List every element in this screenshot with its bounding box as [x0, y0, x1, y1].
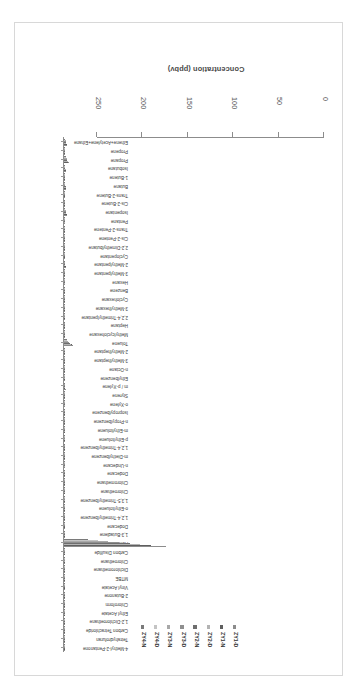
bar — [64, 604, 65, 605]
bar — [64, 375, 65, 376]
category-label: Trans-2-Pentene — [46, 225, 130, 233]
category-row: Benzene — [46, 286, 324, 295]
bar — [64, 296, 65, 297]
category-row: Propane — [46, 155, 324, 164]
bar — [64, 332, 65, 333]
category-label: Carbon Tetrachloride — [46, 626, 130, 634]
bar — [64, 641, 65, 642]
bar — [64, 466, 65, 467]
category-label: 3-Methylheptane — [46, 356, 130, 364]
category-row: 1,2,4-Trimethylbenzene — [46, 443, 324, 452]
bar — [64, 588, 65, 589]
bar — [64, 288, 65, 289]
bar — [64, 307, 65, 308]
bar — [64, 518, 65, 519]
bar — [64, 436, 65, 437]
bar — [64, 610, 65, 611]
bar — [64, 379, 65, 380]
bar — [64, 238, 65, 239]
bar — [64, 237, 65, 238]
bar — [64, 592, 65, 593]
bar — [64, 649, 65, 650]
bar — [64, 327, 65, 328]
bar — [64, 157, 66, 158]
bar — [64, 500, 65, 501]
value-axis-tick — [96, 132, 97, 137]
bar — [64, 462, 65, 463]
bar — [64, 279, 65, 280]
bar — [64, 427, 65, 428]
bar — [64, 229, 65, 230]
bar — [64, 291, 65, 292]
bar — [64, 498, 65, 499]
bar — [64, 282, 65, 283]
bar — [64, 201, 65, 202]
category-row: n-Octane — [46, 365, 324, 374]
bar — [64, 149, 65, 150]
bar — [64, 383, 65, 384]
category-row: Propene — [46, 147, 324, 156]
bar — [64, 509, 65, 510]
bar — [64, 561, 65, 562]
bar — [64, 395, 65, 396]
bar — [64, 141, 66, 142]
category-label: Butane — [46, 182, 130, 190]
bar — [64, 159, 67, 160]
bar — [64, 356, 65, 357]
bar — [64, 428, 65, 429]
bar — [64, 290, 65, 291]
bar — [64, 499, 65, 500]
bar — [64, 384, 65, 385]
bar — [64, 350, 65, 351]
category-row: Cis-2-Pentene — [46, 234, 324, 243]
bar — [64, 571, 65, 572]
bar — [64, 262, 65, 263]
bar — [64, 419, 65, 420]
category-label: Ethyl Acetate — [46, 609, 130, 617]
category-row: 3-Methylheptane — [46, 356, 324, 365]
bar — [64, 472, 65, 473]
bar — [64, 263, 65, 264]
bar — [64, 339, 67, 340]
bar — [64, 412, 65, 413]
bar — [64, 253, 65, 254]
bar — [64, 480, 65, 481]
bar — [64, 631, 65, 632]
bar — [64, 179, 65, 180]
bar — [64, 272, 65, 273]
bar — [64, 585, 65, 586]
bar — [64, 169, 66, 170]
bar — [64, 152, 65, 153]
category-row: 1,3-Butadiene — [46, 530, 324, 539]
bar — [64, 330, 65, 331]
bar — [64, 461, 65, 462]
bar — [64, 404, 65, 405]
bar — [64, 567, 65, 568]
bar — [64, 313, 65, 314]
bar — [64, 230, 65, 231]
bar — [64, 496, 65, 497]
bar — [64, 552, 65, 553]
bar — [64, 384, 65, 385]
bar — [64, 209, 65, 210]
bar — [64, 310, 65, 311]
category-row: n-Undecane — [46, 460, 324, 469]
category-label: 2,2-Dimethylbutane — [46, 243, 130, 251]
bar — [64, 357, 65, 358]
bar — [64, 246, 65, 247]
category-row: Carbon Disulfide — [46, 547, 324, 556]
bar — [64, 306, 65, 307]
category-row: 1,2-Dichloroethane — [46, 617, 324, 626]
bar — [64, 622, 65, 623]
bar — [64, 553, 65, 554]
bar — [64, 290, 65, 291]
bar — [64, 579, 65, 580]
bar — [64, 528, 65, 529]
bar — [64, 621, 65, 622]
bar — [64, 362, 65, 363]
bar — [64, 639, 65, 640]
category-label: o-Ethyltoluene — [46, 504, 130, 512]
bar — [64, 317, 65, 318]
bar — [64, 536, 65, 537]
bar — [64, 453, 65, 454]
